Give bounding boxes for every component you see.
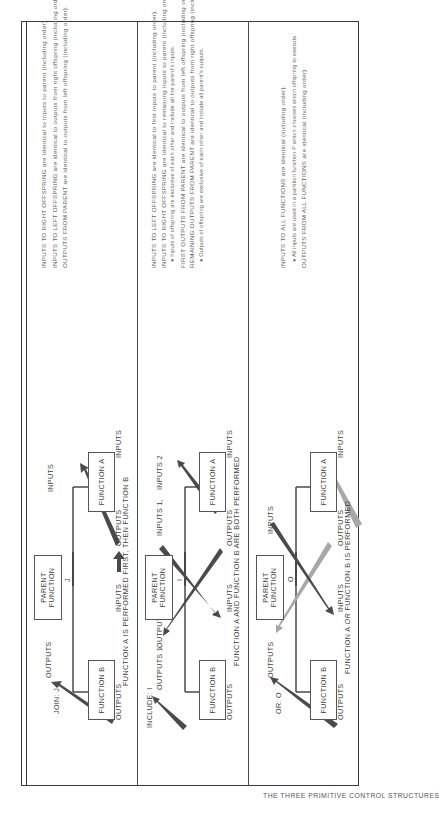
parent-box-label: PARENTFUNCTION (40, 568, 56, 608)
panel-or: OR: O OUTPUTS OUTPUTS INPUTS INPUTS OUTP… (248, 0, 359, 814)
include-function-a-box: FUNCTION A (199, 452, 226, 512)
join-bottom-left-outputs-label: OUTPUTS (114, 684, 123, 720)
or-top-outputs-label: OUTPUTS (266, 642, 275, 678)
join-node-symbol: J (63, 578, 72, 582)
parent-box-label: PARENTFUNCTION (262, 568, 278, 608)
join-function-a-box: FUNCTION A (88, 452, 115, 512)
description-bullet-line: ● Outputs of offspring are exclusive of … (197, 0, 207, 268)
panel-join: JOIN: J OUTPUTS OUTPUTS INPUTS INPUTS OU… (26, 0, 137, 814)
description-bullet-line: ● Inputs of offspring are exclusive of e… (168, 0, 178, 268)
include-bottom-right-inputs-label: INPUTS (225, 430, 234, 458)
join-caption: FUNCTION A IS PERFORMED FIRST, THEN FUNC… (121, 476, 130, 686)
or-function-b-box: FUNCTION B (310, 660, 337, 720)
function-b-label: FUNCTION B (320, 667, 328, 714)
description-line: REMAINING OUTPUTS FROM PARENT are identi… (187, 0, 197, 268)
include-type-label: INCLUDE: I (145, 687, 154, 728)
join-parent-function-box: PARENTFUNCTION (34, 555, 62, 620)
join-top-right-inputs-label: INPUTS (46, 464, 55, 492)
include-caption: FUNCTION A AND FUNCTION B ARE BOTH PERFO… (232, 456, 241, 666)
include-bottom-left-outputs-label: OUTPUTS (225, 684, 234, 720)
or-emphasis: OR (343, 613, 352, 625)
arrow-outputs-light (276, 542, 332, 633)
include-top-outputs-1-label: OUTPUTS 1, (155, 645, 164, 690)
figure-caption: THE THREE PRIMITIVE CONTROL STRUCTURES (263, 792, 439, 799)
or-caption: FUNCTION A OR FUNCTION B IS PERFORMED (343, 501, 352, 674)
description-line: OUTPUTS FROM PARENT are identical to out… (60, 0, 71, 268)
arrow-left-outputs (152, 696, 187, 730)
function-a-label: FUNCTION A (98, 459, 106, 506)
include-top-inputs-1-label: INPUTS 1, (155, 499, 164, 536)
parent-box-label: PARENTFUNCTION (151, 568, 167, 608)
join-type-label: JOIN: J (52, 688, 61, 714)
description-line: INPUTS TO LEFT OFFSPRING are identical t… (50, 0, 61, 268)
join-description: INPUTS TO RIGHT OFFSPRING are identical … (39, 0, 71, 268)
or-top-inputs-label: INPUTS (266, 506, 275, 534)
join-bottom-right-inputs-label: INPUTS (114, 430, 123, 458)
include-node-symbol: I (175, 579, 184, 581)
or-bottom-right-inputs-label: INPUTS (336, 430, 345, 458)
function-a-label: FUNCTION A (320, 459, 328, 506)
description-line: OUTPUTS FROM ALL FUNCTIONS are identical… (299, 34, 310, 268)
or-function-a-box: FUNCTION A (310, 452, 337, 512)
join-function-b-box: FUNCTION B (88, 660, 115, 720)
include-parent-function-box: PARENTFUNCTION (145, 555, 173, 620)
description-line: INPUTS TO RIGHT OFFSPRING are identical … (39, 0, 50, 268)
include-description: INPUTS TO LEFT OFFSPRING are identical t… (149, 0, 207, 268)
function-b-label: FUNCTION B (209, 667, 217, 714)
or-node-symbol: O (286, 576, 295, 582)
or-description: INPUTS TO ALL FUNCTIONS are identical (i… (278, 34, 310, 268)
or-type-label: OR: O (274, 692, 283, 714)
panel-include: INCLUDE: I OUTPUTS OUTPUTS 1, OUTPUTS 2 … (137, 0, 248, 814)
function-a-label: FUNCTION A (209, 459, 217, 506)
include-top-inputs-2-label: INPUTS 2 (155, 455, 164, 490)
join-top-left-outputs-label: OUTPUTS (44, 642, 53, 678)
or-parent-function-box: PARENTFUNCTION (256, 555, 284, 620)
include-function-b-box: FUNCTION B (199, 660, 226, 720)
description-bullet-line: ● All inputs are used in a partition fun… (289, 34, 300, 268)
description-line: FIRST OUTPUTS FROM PARENT are identical … (178, 0, 188, 268)
description-line: INPUTS TO RIGHT OFFSPRING are identical … (159, 0, 169, 268)
description-line: INPUTS TO ALL FUNCTIONS are identical (i… (278, 34, 289, 268)
description-line: INPUTS TO LEFT OFFSPRING are identical t… (149, 0, 159, 268)
or-bottom-left-outputs-label: OUTPUTS (336, 684, 345, 720)
function-b-label: FUNCTION B (98, 667, 106, 714)
